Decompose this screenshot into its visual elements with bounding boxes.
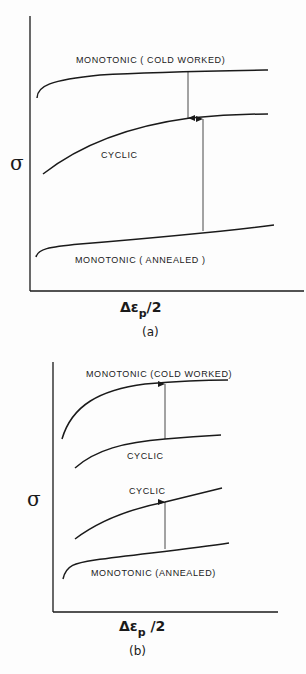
label-cyclic-upper-b: CYCLIC [127,451,164,461]
y-axis-label-b: σ [27,487,41,511]
label-cyclic-a: CYCLIC [101,150,138,160]
y-axis-label-a: σ [10,151,24,175]
curve-monotonic-annealed-a [36,225,274,257]
label-monotonic-annealed-a: MONOTONIC ( ANNEALED ) [75,255,206,265]
label-cyclic-lower-b: CYCLIC [129,486,166,496]
caption-a: (a) [142,325,159,339]
x-axis-label-b: Δεp /2 [119,618,165,639]
curve-monotonic-cold-worked-b [62,380,228,439]
curve-cyclic-a [43,114,268,174]
label-monotonic-cold-worked-b: MONOTONIC (COLD WORKED) [86,369,232,379]
label-monotonic-annealed-b: MONOTONIC (ANNEALED) [91,568,216,578]
x-axis-label-a: Δεp/2 [120,299,161,320]
label-monotonic-cold-worked-a: MONOTONIC ( COLD WORKED) [76,55,225,65]
panel-b: σ MONOTONIC (COLD WORKED) CYCLIC CYCLIC … [27,362,278,658]
curve-monotonic-cold-worked-a [37,70,268,98]
panel-a: σ MONOTONIC ( COLD WORKED) CYCLIC MONOTO… [10,16,304,339]
caption-b: (b) [129,644,146,658]
figure: σ MONOTONIC ( COLD WORKED) CYCLIC MONOTO… [0,0,306,674]
